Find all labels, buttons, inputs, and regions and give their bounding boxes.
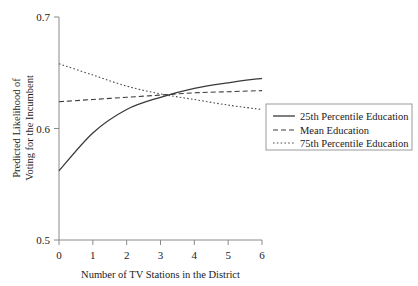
x-tick-label-3: 3	[158, 249, 164, 261]
legend-label-2: 75th Percentile Education	[300, 138, 409, 149]
x-tick-label-0: 0	[56, 249, 62, 261]
legend-label-1: Mean Education	[300, 125, 370, 136]
line-chart: 0.7 0.6 0.5 0 1 2 3 4 5 6 Number of TV S…	[0, 0, 418, 286]
chart-figure: 0.7 0.6 0.5 0 1 2 3 4 5 6 Number of TV S…	[0, 0, 418, 286]
y-tick-label-bottom: 0.5	[36, 234, 50, 246]
legend: 25th Percentile Education Mean Education…	[266, 104, 412, 150]
x-tick-label-5: 5	[225, 249, 231, 261]
x-tick-label-4: 4	[192, 249, 198, 261]
legend-label-0: 25th Percentile Education	[300, 111, 409, 122]
x-tick-label-1: 1	[90, 249, 96, 261]
y-axis-title-line1: Predicted Likelihood of	[11, 78, 22, 178]
y-tick-label-top: 0.7	[36, 11, 50, 23]
x-axis-title: Number of TV Stations in the District	[81, 269, 240, 280]
x-tick-label-6: 6	[259, 249, 265, 261]
y-tick-label-mid: 0.6	[36, 123, 50, 135]
y-axis-title-line2: Voting for the Incumbent	[24, 75, 35, 181]
x-tick-label-2: 2	[124, 249, 130, 261]
